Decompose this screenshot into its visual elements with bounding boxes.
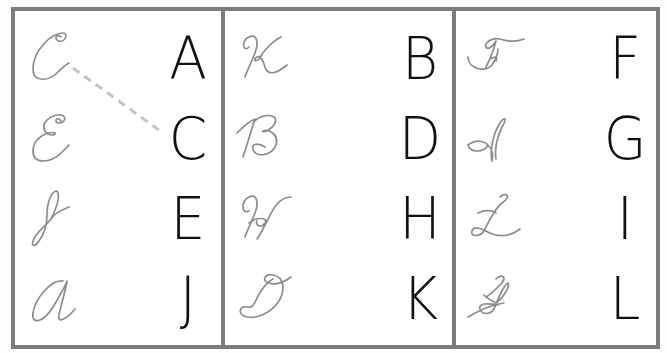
print-letter[interactable]: F: [597, 29, 654, 89]
print-letter[interactable]: D: [392, 109, 449, 169]
print-letter[interactable]: B: [392, 29, 449, 89]
panel-1: A C E J: [15, 11, 221, 345]
cursive-letter-b[interactable]: [235, 109, 315, 173]
cursive-letter-l[interactable]: [466, 189, 546, 253]
print-letter[interactable]: J: [160, 269, 217, 329]
print-letter[interactable]: L: [597, 269, 654, 329]
cursive-letter-k[interactable]: [235, 29, 315, 93]
cursive-letter-c[interactable]: [23, 29, 103, 93]
cursive-letter-g[interactable]: [466, 269, 546, 333]
print-letter[interactable]: C: [160, 109, 217, 169]
cursive-letter-i[interactable]: [466, 109, 546, 173]
cursive-letter-a[interactable]: [23, 269, 103, 333]
cursive-letter-e[interactable]: [23, 109, 103, 173]
print-letter[interactable]: K: [392, 269, 449, 329]
cursive-letter-j[interactable]: [23, 189, 103, 253]
print-letter[interactable]: A: [160, 29, 217, 89]
cursive-letter-h[interactable]: [235, 189, 315, 253]
print-letter[interactable]: I: [597, 189, 654, 249]
print-letter[interactable]: H: [392, 189, 449, 249]
cursive-letter-f[interactable]: [466, 29, 546, 93]
panel-2: B D H K: [225, 11, 452, 345]
panel-3: F G I L: [456, 11, 654, 345]
print-letter[interactable]: E: [160, 189, 217, 249]
print-letter[interactable]: G: [597, 109, 654, 169]
cursive-letter-d[interactable]: [235, 269, 315, 333]
matching-worksheet: A C E J B D H: [0, 0, 667, 353]
